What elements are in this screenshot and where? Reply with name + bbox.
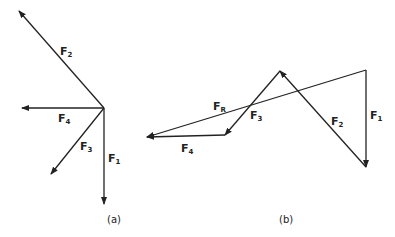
force-vector-diagram: F1F2F3F4 F1F2F3F4FR (a) (b) (0, 0, 395, 237)
label-fr: FR (213, 100, 227, 114)
caption-b: (b) (279, 214, 293, 225)
label-f3: F3 (250, 109, 263, 123)
vector-f4-arrow (147, 135, 225, 137)
panel-b-polygon-method: F1F2F3F4FR (147, 70, 383, 167)
vector-f3-arrow (225, 71, 280, 135)
label-f4: F4 (181, 142, 194, 156)
vector-f2-arrow (19, 11, 104, 108)
label-f3: F3 (80, 140, 93, 154)
label-f1: F1 (370, 109, 383, 123)
label-f2: F2 (60, 45, 73, 59)
vector-f2-arrow (280, 71, 366, 167)
panel-a-concurrent-forces: F1F2F3F4 (19, 11, 121, 204)
label-f1: F1 (108, 152, 121, 166)
label-f2: F2 (331, 115, 344, 129)
caption-a: (a) (107, 214, 121, 225)
label-f4: F4 (58, 112, 71, 126)
